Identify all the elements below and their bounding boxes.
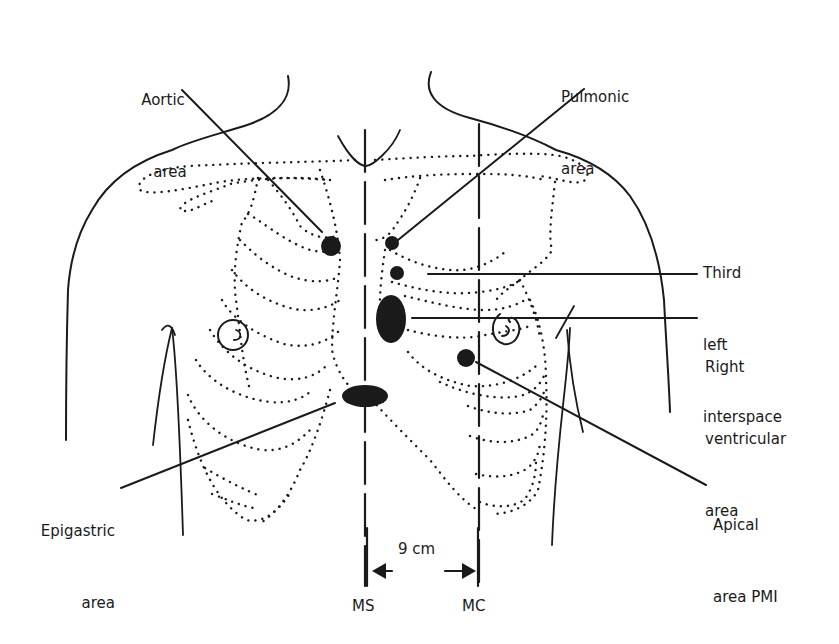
- label-line: area: [561, 157, 629, 181]
- right-arm-mark: [556, 306, 574, 338]
- apical-area-label: Apical area PMI: [713, 465, 778, 633]
- label-line: Aortic: [128, 88, 198, 112]
- apical-leader: [476, 362, 706, 485]
- aortic-area-marker: [321, 236, 341, 256]
- midclavicular-label: MC: [462, 597, 485, 615]
- arrow-left-head: [372, 563, 386, 579]
- aortic-area-label: Aortic area: [128, 40, 198, 208]
- epigastric-area-label: Epigastric area: [10, 471, 115, 639]
- pulmonic-leader: [398, 89, 584, 240]
- third-left-interspace-marker: [390, 266, 404, 280]
- label-line: area: [128, 160, 198, 184]
- arrow-right-head: [462, 563, 476, 579]
- label-line: area: [10, 591, 115, 615]
- right-torso-side: [552, 328, 570, 545]
- distance-label: 9 cm: [398, 540, 435, 558]
- label-line: Pulmonic: [561, 85, 629, 109]
- left-torso-side-inner: [172, 328, 183, 535]
- left-torso-side: [153, 328, 172, 445]
- label-line: Third: [703, 261, 782, 285]
- label-line: Apical: [713, 513, 778, 537]
- right-ventricular-area-marker: [376, 295, 406, 343]
- left-nipple-center: [234, 330, 240, 340]
- midsternal-label: MS: [352, 597, 374, 615]
- label-line: Right: [705, 355, 786, 379]
- aortic-leader: [182, 90, 322, 232]
- pulmonic-area-marker: [385, 236, 399, 250]
- label-line: area PMI: [713, 585, 778, 609]
- pulmonic-area-label: Pulmonic area: [561, 37, 629, 205]
- label-line: ventricular: [705, 427, 786, 451]
- left-nipple-icon: [218, 320, 248, 350]
- epigastric-area-marker: [342, 385, 388, 407]
- label-line: Epigastric: [10, 519, 115, 543]
- apical-area-marker: [457, 349, 475, 367]
